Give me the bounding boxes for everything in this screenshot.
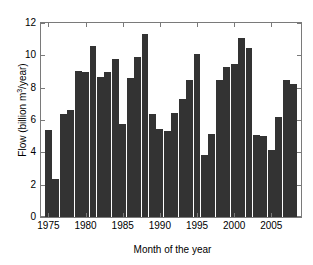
bar [97, 77, 104, 217]
x-tick-label: 1990 [140, 221, 180, 231]
y-tick-mark [297, 23, 301, 24]
y-tick-mark [41, 23, 45, 24]
x-tick-mark [86, 23, 87, 27]
bar [171, 113, 178, 217]
y-tick-mark [41, 152, 45, 153]
bar [119, 124, 126, 217]
bar [45, 130, 52, 217]
y-tick-mark [297, 185, 301, 186]
x-tick-mark [160, 213, 161, 217]
bar [201, 155, 208, 217]
x-tick-mark [271, 23, 272, 27]
bar [67, 110, 74, 217]
bar [275, 117, 282, 217]
y-tick-mark [297, 152, 301, 153]
bar [90, 46, 97, 217]
y-tick-mark [297, 88, 301, 89]
plot-area [40, 22, 302, 218]
bar [52, 179, 59, 217]
bar [231, 64, 238, 217]
x-tick-mark [48, 213, 49, 217]
x-tick-label: 2005 [251, 221, 291, 231]
bar [142, 34, 149, 217]
x-tick-mark [197, 213, 198, 217]
y-tick-mark [297, 216, 301, 217]
bar [246, 48, 253, 217]
bar [149, 114, 156, 217]
bar-series [41, 23, 301, 217]
x-tick-mark [160, 23, 161, 27]
bar [253, 135, 260, 217]
bar [238, 38, 245, 217]
x-tick-label: 1985 [103, 221, 143, 231]
x-tick-mark [48, 23, 49, 27]
y-tick-mark [297, 120, 301, 121]
bar [104, 72, 111, 218]
y-tick-mark [41, 55, 45, 56]
y-tick-label: 2 [2, 180, 36, 190]
x-tick-mark [197, 23, 198, 27]
x-tick-mark [86, 213, 87, 217]
y-tick-mark [41, 185, 45, 186]
y-tick-mark [41, 216, 45, 217]
bar [156, 129, 163, 217]
x-tick-mark [234, 23, 235, 27]
x-tick-mark [123, 213, 124, 217]
bar [112, 59, 119, 217]
bar [164, 131, 171, 217]
bar [223, 67, 230, 217]
bar [268, 150, 275, 217]
x-tick-label: 2000 [214, 221, 254, 231]
x-tick-label: 1975 [28, 221, 68, 231]
x-tick-label: 1995 [177, 221, 217, 231]
bar [290, 84, 297, 217]
x-tick-mark [123, 23, 124, 27]
bar [179, 99, 186, 217]
x-tick-mark [271, 213, 272, 217]
flow-bar-chart-figure: Flow (billion m3/year) 024681012 1975198… [0, 0, 313, 265]
y-tick-label: 6 [2, 115, 36, 125]
x-tick-label: 1980 [66, 221, 106, 231]
x-tick-mark [234, 213, 235, 217]
bar [127, 78, 134, 217]
bar [208, 134, 215, 217]
bar [186, 80, 193, 217]
y-tick-label: 12 [2, 18, 36, 28]
bar [60, 114, 67, 217]
bar [260, 136, 267, 217]
y-tick-mark [41, 88, 45, 89]
bar [134, 57, 141, 217]
bar [283, 80, 290, 217]
y-tick-mark [297, 55, 301, 56]
y-tick-label: 8 [2, 83, 36, 93]
bar [82, 72, 89, 217]
bar [194, 54, 201, 217]
y-tick-mark [41, 120, 45, 121]
x-axis-label: Month of the year [40, 244, 305, 255]
bar [75, 71, 82, 217]
bar [216, 80, 223, 217]
y-tick-label: 4 [2, 147, 36, 157]
y-tick-label: 10 [2, 50, 36, 60]
